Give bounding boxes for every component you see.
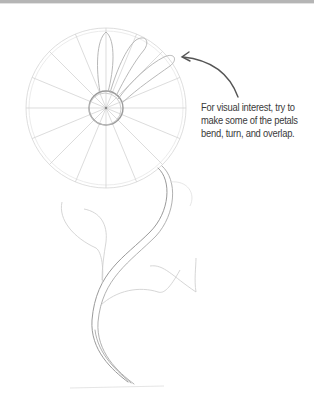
caption-line: make some of the petals bbox=[201, 114, 305, 127]
center-dot bbox=[105, 107, 107, 109]
callout-arrow bbox=[182, 52, 238, 97]
ground-line bbox=[70, 386, 164, 388]
caption-line: bend, turn, and overlap. bbox=[201, 127, 305, 140]
petal-vertical bbox=[98, 32, 113, 92]
leaves bbox=[61, 182, 196, 306]
leaf-right-lower bbox=[100, 270, 180, 306]
petal-third bbox=[118, 55, 175, 103]
drawn-petals bbox=[98, 32, 175, 103]
arrow-head-icon bbox=[182, 52, 190, 61]
caption-text: For visual interest, try to make some of… bbox=[201, 101, 305, 140]
flower-sketch bbox=[0, 0, 314, 405]
arrow-shaft bbox=[183, 57, 238, 97]
caption-line: For visual interest, try to bbox=[201, 101, 305, 114]
leaf-right-upper bbox=[170, 182, 192, 206]
leaf-right-middle bbox=[150, 258, 196, 292]
stem bbox=[92, 166, 173, 384]
